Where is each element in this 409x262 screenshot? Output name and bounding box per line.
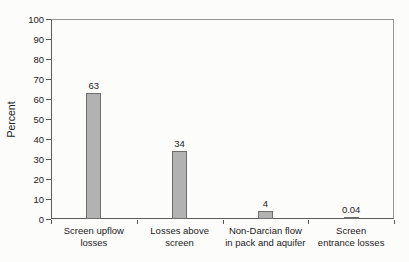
x-category-label: Screen upflowlosses — [47, 225, 141, 248]
x-tick-mark — [51, 220, 52, 224]
y-axis-title: Percent — [5, 90, 18, 150]
y-tick-mark — [46, 199, 51, 200]
x-category-label: Non-Darcian flowin pack and aquifer — [219, 225, 313, 248]
y-tick-label: 80 — [18, 54, 44, 65]
bar-value-label: 0.04 — [329, 204, 373, 215]
x-category-label-line: screen — [133, 237, 227, 249]
y-tick-label: 0 — [18, 214, 44, 225]
bar-value-label: 34 — [158, 138, 202, 149]
bar — [258, 211, 273, 219]
bar — [86, 93, 101, 219]
y-tick-mark — [46, 99, 51, 100]
plot-area — [51, 19, 394, 219]
bar — [172, 151, 187, 219]
x-category-label-line: Screen upflow — [47, 225, 141, 237]
x-category-label-line: losses — [47, 237, 141, 249]
bar-value-label: 4 — [243, 198, 287, 209]
y-tick-label: 40 — [18, 134, 44, 145]
bar — [344, 217, 359, 219]
x-tick-mark — [308, 220, 309, 224]
bar-value-label: 63 — [72, 80, 116, 91]
y-tick-mark — [46, 19, 51, 20]
y-tick-label: 70 — [18, 74, 44, 85]
y-tick-mark — [46, 139, 51, 140]
y-tick-label: 90 — [18, 34, 44, 45]
y-tick-label: 50 — [18, 114, 44, 125]
x-category-label: Losses abovescreen — [133, 225, 227, 248]
x-category-label-line: Non-Darcian flow — [219, 225, 313, 237]
x-category-label-line: entrance losses — [304, 237, 398, 249]
x-category-label: Screenentrance losses — [304, 225, 398, 248]
x-category-label-line: in pack and aquifer — [219, 237, 313, 249]
x-category-label-line: Screen — [304, 225, 398, 237]
y-tick-mark — [46, 179, 51, 180]
y-tick-label: 30 — [18, 154, 44, 165]
y-tick-mark — [46, 79, 51, 80]
x-tick-mark — [394, 220, 395, 224]
y-tick-label: 100 — [18, 14, 44, 25]
y-tick-label: 60 — [18, 94, 44, 105]
y-tick-label: 20 — [18, 174, 44, 185]
y-tick-mark — [46, 159, 51, 160]
y-tick-mark — [46, 39, 51, 40]
bar-chart-figure: Percent 010203040506070809010063Screen u… — [0, 0, 409, 262]
y-tick-label: 10 — [18, 194, 44, 205]
x-tick-mark — [223, 220, 224, 224]
x-tick-mark — [137, 220, 138, 224]
x-category-label-line: Losses above — [133, 225, 227, 237]
y-tick-mark — [46, 59, 51, 60]
y-tick-mark — [46, 119, 51, 120]
